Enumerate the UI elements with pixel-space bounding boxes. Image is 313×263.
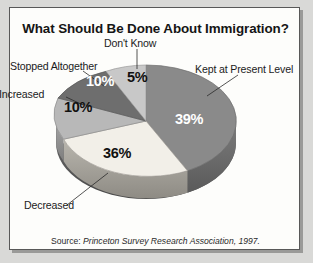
slice-value-kept-at-present-level: 39% (175, 111, 203, 127)
category-label-stopped-altogether: Stopped Altogether (10, 60, 97, 72)
category-label-decreased: Decreased (24, 199, 74, 211)
slice-value-stopped-altogether: 10% (86, 73, 114, 89)
slice-value-increased: 10% (64, 99, 92, 115)
pie-chart: 39% 36% 10% 10% 5% Don't Know Kept at Pr… (0, 0, 304, 256)
category-label-dont-know: Don't Know (104, 37, 156, 49)
category-label-increased: Increased (0, 88, 44, 100)
figure-plate: What Should Be Done About Immigration? S… (0, 0, 313, 263)
category-label-kept-at-present-level: Kept at Present Level (195, 63, 293, 75)
slice-value-dont-know: 5% (127, 69, 147, 85)
slice-value-decreased: 36% (103, 145, 131, 161)
